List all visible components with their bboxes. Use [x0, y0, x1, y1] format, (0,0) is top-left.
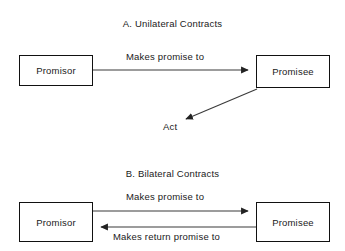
node-promisor-unilateral: Promisor — [19, 55, 93, 86]
node-promisee-bilateral-label: Promisee — [272, 217, 314, 228]
edge-label-makes-return-promise-to-bilateral: Makes return promise to — [113, 231, 220, 242]
section-title-unilateral: A. Unilateral Contracts — [0, 18, 345, 29]
node-act-label: Act — [163, 121, 177, 132]
node-promisee-bilateral: Promisee — [256, 202, 330, 242]
node-promisor-unilateral-label: Promisor — [36, 65, 76, 76]
node-promisee-unilateral: Promisee — [256, 55, 330, 88]
edge-label-makes-promise-to-unilateral: Makes promise to — [126, 51, 204, 62]
edge-promisee-to-act-unilateral — [186, 89, 257, 119]
node-promisor-bilateral: Promisor — [19, 202, 93, 242]
node-promisor-bilateral-label: Promisor — [36, 217, 76, 228]
edge-label-makes-promise-to-bilateral: Makes promise to — [126, 191, 204, 202]
contracts-diagram: A. Unilateral Contracts Promisor Promise… — [0, 0, 345, 251]
node-promisee-unilateral-label: Promisee — [272, 66, 314, 77]
section-title-bilateral: B. Bilateral Contracts — [0, 168, 345, 179]
